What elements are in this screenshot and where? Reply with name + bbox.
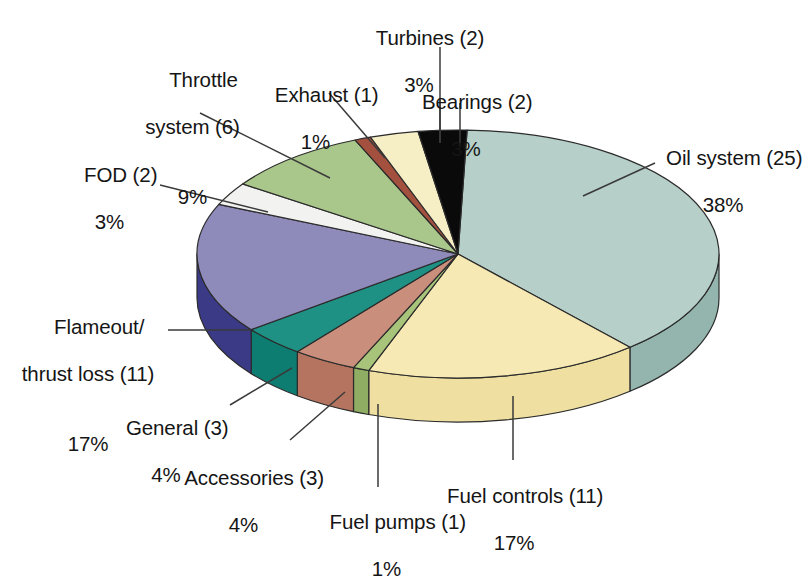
label-accessories-name: Accessories (3) (184, 466, 324, 489)
label-fod-percent: 3% (47, 210, 172, 233)
label-fuel-controls: Fuel controls (11) 17% (413, 461, 615, 580)
label-exhaust: Exhaust (1) 1% (238, 60, 393, 200)
label-oil-system: Oil system (25) 38% (640, 123, 806, 263)
label-fuel-controls-percent: 17% (413, 531, 615, 554)
label-oil-system-percent: 38% (640, 193, 806, 216)
label-fod-name: FOD (2) (84, 163, 157, 186)
label-throttle-system-name-line1: Throttle (169, 68, 238, 91)
label-flameout-name-line2: thrust loss (11) (8, 362, 168, 385)
label-fuel-controls-name: Fuel controls (11) (447, 484, 603, 507)
pie-side-fuel-pumps (354, 368, 369, 415)
label-flameout-name-line1: Flameout/ (54, 315, 144, 338)
label-exhaust-percent: 1% (238, 130, 393, 153)
label-oil-system-name: Oil system (25) (666, 146, 802, 169)
label-general-name: General (3) (126, 416, 229, 439)
label-bearings: Bearings (2) 3% (386, 67, 546, 207)
label-bearings-name: Bearings (2) (422, 90, 532, 113)
label-fod: FOD (2) 3% (47, 140, 172, 280)
label-exhaust-name: Exhaust (1) (275, 83, 379, 106)
label-turbines-name: Turbines (2) (376, 26, 485, 49)
label-bearings-percent: 3% (386, 137, 546, 160)
